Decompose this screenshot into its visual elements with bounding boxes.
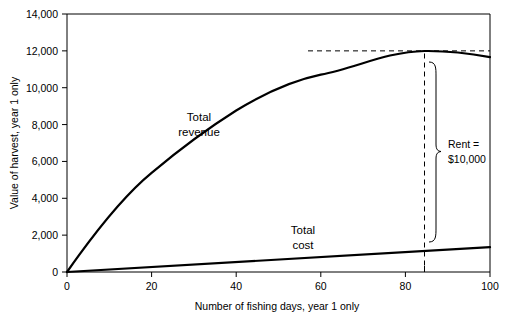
y-tick-label-6000: 6,000 — [32, 155, 58, 167]
x-tick-label-20: 20 — [146, 280, 158, 292]
rent-label-line1: Rent = — [448, 138, 479, 150]
total-cost-label-line1: Total — [291, 224, 315, 236]
total-revenue-label-line2: revenue — [178, 126, 220, 138]
x-tick-label-80: 80 — [400, 280, 412, 292]
total-cost-label-line2: cost — [292, 239, 314, 251]
y-tick-label-8000: 8,000 — [32, 119, 58, 131]
y-tick-label-4000: 4,000 — [32, 192, 58, 204]
y-tick-label-2000: 2,000 — [32, 229, 58, 241]
y-tick-label-10000: 10,000 — [26, 82, 58, 94]
x-axis-title: Number of fishing days, year 1 only — [195, 300, 360, 312]
x-tick-label-0: 0 — [64, 280, 70, 292]
x-tick-label-60: 60 — [315, 280, 327, 292]
chart-svg: 14,000 12,000 10,000 8,000 6,000 4,000 2… — [0, 0, 512, 320]
y-axis-title: Value of harvest, year 1 only — [8, 76, 20, 209]
x-tick-label-40: 40 — [230, 280, 242, 292]
y-tick-label-14000: 14,000 — [26, 8, 58, 20]
y-tick-label-0: 0 — [52, 266, 58, 278]
x-tick-label-100: 100 — [481, 280, 499, 292]
rent-label-line2: $10,000 — [448, 153, 486, 165]
y-tick-label-12000: 12,000 — [26, 45, 58, 57]
fishery-revenue-cost-chart: 14,000 12,000 10,000 8,000 6,000 4,000 2… — [0, 0, 512, 320]
total-revenue-label-line1: Total — [187, 111, 211, 123]
